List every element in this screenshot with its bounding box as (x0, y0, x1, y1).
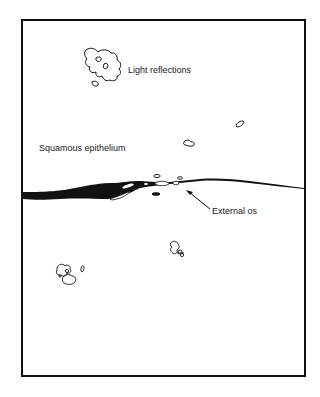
light-reflection-cluster-lower-left (56, 264, 84, 284)
light-reflection-cluster-lower-mid (170, 241, 184, 256)
external-os-channel (23, 179, 304, 200)
external-os-label: External os (212, 207, 257, 216)
light-reflection-small-mid (184, 140, 195, 146)
light-reflections-label: Light reflections (128, 66, 191, 75)
light-reflection-cluster-large (85, 48, 121, 86)
cervix-drawing (0, 0, 320, 397)
squamous-epithelium-label: Squamous epithelium (39, 144, 126, 153)
light-reflection-small-right (236, 121, 244, 127)
external-os-arrow (186, 190, 210, 209)
